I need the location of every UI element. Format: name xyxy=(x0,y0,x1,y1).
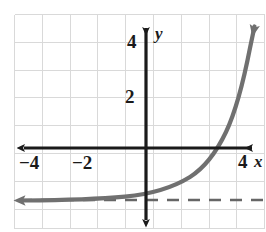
exponential-curve xyxy=(24,27,255,201)
graph-figure: 4 2 −4 −2 4 x y xyxy=(0,0,266,232)
x-tick-label-minus-4: −4 xyxy=(19,153,39,172)
y-tick-label-2: 2 xyxy=(125,87,135,106)
x-axis-label: x xyxy=(254,153,263,170)
y-axis-label: y xyxy=(155,25,163,42)
x-tick-label-4: 4 xyxy=(238,152,248,171)
x-tick-label-minus-2: −2 xyxy=(72,153,92,172)
y-tick-label-4: 4 xyxy=(127,32,137,51)
